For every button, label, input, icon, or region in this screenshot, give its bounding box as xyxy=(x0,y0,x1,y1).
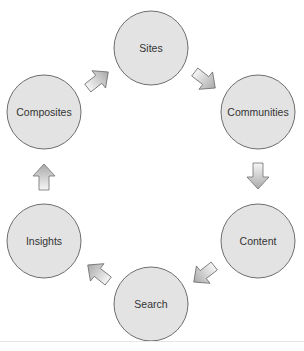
node-communities: Communities xyxy=(221,75,295,149)
node-search-label: Search xyxy=(134,298,167,310)
node-communities-label: Communities xyxy=(227,106,288,118)
cycle-diagram: Sites Communities Content Search Insight… xyxy=(0,0,304,351)
arrow-content-to-search-icon xyxy=(187,257,221,290)
node-sites-label: Sites xyxy=(139,42,162,54)
node-search: Search xyxy=(114,267,188,341)
footer-divider xyxy=(0,341,304,342)
arrow-sites-to-communities-icon xyxy=(188,63,222,96)
arrow-insights-to-composites-icon xyxy=(33,164,55,190)
node-content: Content xyxy=(221,204,295,278)
node-sites: Sites xyxy=(114,11,188,85)
node-composites-label: Composites xyxy=(16,106,71,118)
arrow-communities-to-content-icon xyxy=(247,163,269,189)
node-content-label: Content xyxy=(240,235,277,247)
node-insights: Insights xyxy=(7,204,81,278)
node-insights-label: Insights xyxy=(26,235,62,247)
arrow-composites-to-sites-icon xyxy=(81,63,115,96)
arrow-search-to-insights-icon xyxy=(81,256,115,289)
node-composites: Composites xyxy=(7,75,81,149)
